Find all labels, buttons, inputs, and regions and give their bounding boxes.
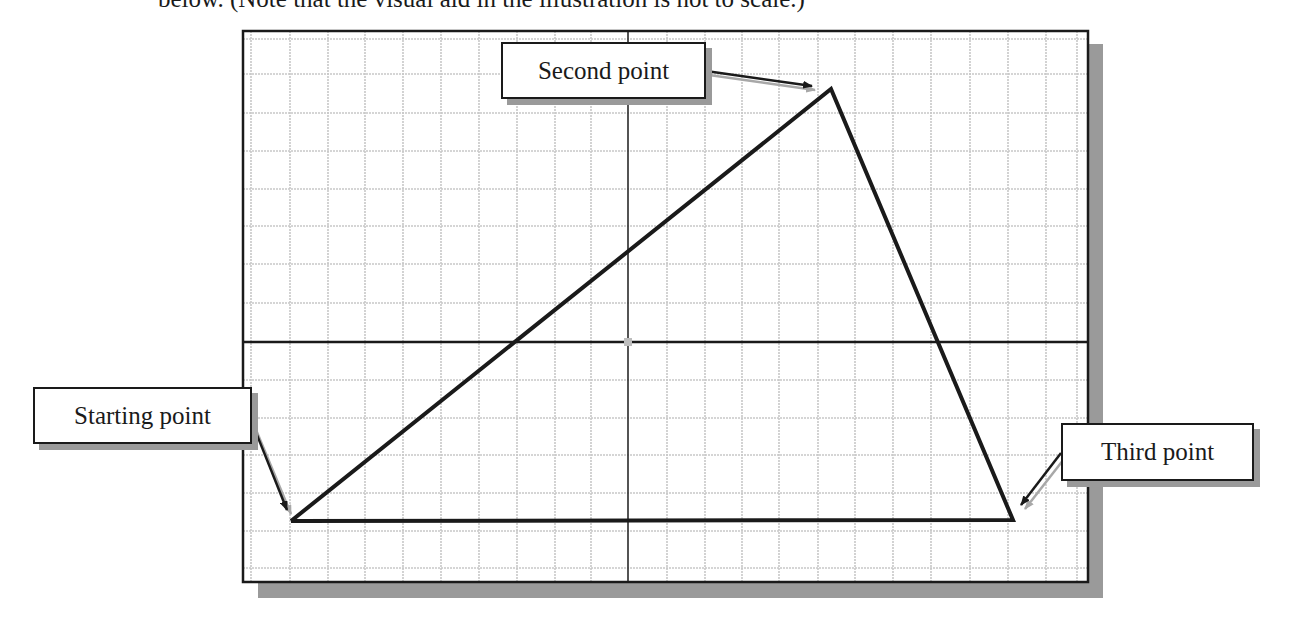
origin-marker — [624, 338, 632, 346]
third-point-label: Third point — [1061, 423, 1254, 481]
second-point-label: Second point — [501, 42, 706, 99]
starting-point-label: Starting point — [33, 387, 252, 444]
